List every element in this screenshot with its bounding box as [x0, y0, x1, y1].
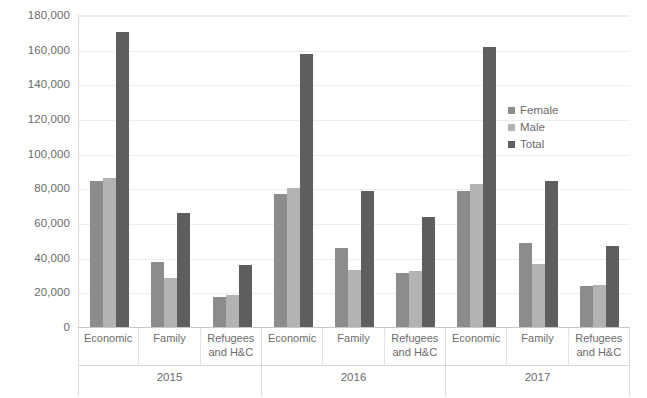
y-axis-tick-label: 100,000 [28, 148, 70, 160]
category-group [79, 16, 140, 327]
year-group-2016 [263, 16, 447, 327]
x-axis-year-label: 2015 [78, 366, 262, 396]
category-label-group-2015: EconomicFamilyRefugeesand H&C [78, 328, 262, 365]
legend-item-male[interactable]: Male [508, 121, 558, 133]
x-axis-year-labels: 201520162017 [78, 366, 630, 396]
bar-female [90, 181, 103, 327]
y-axis-tick-label: 40,000 [34, 252, 70, 264]
y-axis-tick-label: 120,000 [28, 113, 70, 125]
bar-female [519, 243, 532, 327]
y-axis-tick-label: 180,000 [28, 9, 70, 21]
bar-male [103, 178, 116, 327]
legend-item-female[interactable]: Female [508, 104, 558, 116]
year-group-2017 [446, 16, 630, 327]
bar-female [151, 262, 164, 327]
x-axis-category-label: Refugeesand H&C [569, 328, 629, 365]
legend-label: Male [520, 121, 545, 133]
bar-total [300, 54, 313, 327]
x-axis-category-labels: EconomicFamilyRefugeesand H&CEconomicFam… [78, 328, 630, 366]
plot-area [78, 15, 630, 327]
bar-female [396, 273, 409, 327]
y-axis-tick-label: 20,000 [34, 286, 70, 298]
year-group-2015 [79, 16, 263, 327]
bar-male [532, 264, 545, 327]
bar-male [593, 285, 606, 327]
x-axis-category-label: Economic [78, 328, 139, 365]
category-group [201, 16, 262, 327]
y-axis-tick-label: 0 [64, 321, 71, 333]
y-axis-tick-label: 140,000 [28, 78, 70, 90]
x-axis-category-label: Economic [446, 328, 507, 365]
category-group [508, 16, 569, 327]
category-label-group-2016: EconomicFamilyRefugeesand H&C [262, 328, 446, 365]
category-group [324, 16, 385, 327]
bars-layer [79, 16, 630, 327]
chart-legend: FemaleMaleTotal [508, 104, 558, 150]
x-axis-category-label: Economic [262, 328, 323, 365]
category-group [385, 16, 446, 327]
bar-female [580, 286, 593, 327]
bar-total [239, 265, 252, 327]
legend-swatch-icon [508, 141, 515, 148]
bar-total [177, 213, 190, 327]
legend-label: Total [520, 138, 544, 150]
bar-female [335, 248, 348, 327]
bar-total [116, 32, 129, 327]
category-label-group-2017: EconomicFamilyRefugeesand H&C [446, 328, 630, 365]
x-axis-category-label: Family [507, 328, 568, 365]
legend-swatch-icon [508, 107, 515, 114]
x-axis-year-label: 2016 [262, 366, 446, 396]
y-axis-tick-label: 60,000 [34, 217, 70, 229]
bar-total [361, 191, 374, 327]
x-axis-category-label: Refugeesand H&C [385, 328, 445, 365]
bar-total [606, 246, 619, 327]
bar-male [470, 184, 483, 327]
bar-chart: 180,000160,000140,000120,000100,00080,00… [0, 0, 647, 398]
legend-label: Female [520, 104, 558, 116]
legend-item-total[interactable]: Total [508, 138, 558, 150]
x-axis-category-label: Family [323, 328, 384, 365]
bar-total [422, 217, 435, 327]
legend-swatch-icon [508, 124, 515, 131]
bar-male [409, 271, 422, 327]
x-axis-category-label: Refugeesand H&C [201, 328, 261, 365]
category-group [446, 16, 507, 327]
bar-female [274, 194, 287, 327]
bar-female [213, 297, 226, 327]
bar-male [226, 295, 239, 327]
bar-male [348, 270, 361, 327]
bar-male [164, 278, 177, 327]
x-axis-category-label: Family [139, 328, 200, 365]
bar-female [457, 191, 470, 327]
y-axis-tick-label: 160,000 [28, 44, 70, 56]
y-axis: 180,000160,000140,000120,000100,00080,00… [0, 0, 78, 330]
bar-total [545, 181, 558, 327]
category-group [263, 16, 324, 327]
y-axis-tick-label: 80,000 [34, 182, 70, 194]
x-axis-year-label: 2017 [446, 366, 630, 396]
bar-male [287, 188, 300, 327]
category-group [140, 16, 201, 327]
bar-total [483, 47, 496, 327]
category-group [569, 16, 630, 327]
